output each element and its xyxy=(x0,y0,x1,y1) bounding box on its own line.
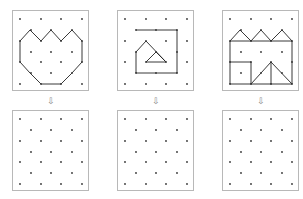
grid-dot xyxy=(270,140,272,142)
grid-dot xyxy=(145,40,147,42)
grid-dot xyxy=(30,129,32,131)
grid-dot xyxy=(186,40,188,42)
grid-dot xyxy=(250,18,252,20)
grid-dot xyxy=(19,161,21,163)
grid-dot xyxy=(135,29,137,31)
figure-crown-shape xyxy=(20,30,82,84)
grid-dot xyxy=(81,18,83,20)
grid-dot xyxy=(250,40,252,42)
grid-dot xyxy=(60,83,62,85)
grid-dot xyxy=(145,61,147,63)
grid-dot xyxy=(155,72,157,74)
grid-dot xyxy=(240,51,242,53)
grid-dot xyxy=(135,72,137,74)
grid-dot xyxy=(135,151,137,153)
grid-dot xyxy=(186,61,188,63)
grid-dot xyxy=(260,51,262,53)
grid-dot xyxy=(124,40,126,42)
grid-dot xyxy=(186,140,188,142)
figure-drawings xyxy=(0,0,303,199)
grid-dot xyxy=(165,61,167,63)
grid-dot xyxy=(30,72,32,74)
grid-dot xyxy=(291,183,293,185)
grid-dot xyxy=(40,40,42,42)
grid-dot xyxy=(71,129,73,131)
grid-dot xyxy=(186,183,188,185)
grid-dot xyxy=(281,72,283,74)
grid-dot xyxy=(291,140,293,142)
grid-dot xyxy=(60,18,62,20)
grid-dot xyxy=(270,61,272,63)
grid-dot xyxy=(291,118,293,120)
grid-dot xyxy=(60,140,62,142)
grid-dot xyxy=(60,118,62,120)
grid-dot xyxy=(250,183,252,185)
grid-dot xyxy=(40,118,42,120)
grid-dot xyxy=(71,72,73,74)
grid-dot xyxy=(281,151,283,153)
grid-dot xyxy=(124,61,126,63)
grid-dot xyxy=(240,151,242,153)
grid-dot xyxy=(81,118,83,120)
grid-dot xyxy=(165,118,167,120)
grid-dot xyxy=(40,83,42,85)
grid-dot xyxy=(229,118,231,120)
grid-dot xyxy=(250,83,252,85)
grid-dot xyxy=(155,151,157,153)
grid-dot xyxy=(270,83,272,85)
grid-dot xyxy=(176,51,178,53)
grid-dot xyxy=(50,129,52,131)
grid-dot xyxy=(40,183,42,185)
grid-dot xyxy=(145,118,147,120)
grid-dot xyxy=(145,161,147,163)
grid-dot xyxy=(250,161,252,163)
grid-dot xyxy=(165,161,167,163)
grid-dot xyxy=(165,18,167,20)
grid-dot xyxy=(19,61,21,63)
grid-dot xyxy=(81,61,83,63)
grid-dot xyxy=(50,172,52,174)
grid-dot xyxy=(240,172,242,174)
grid-dot xyxy=(145,140,147,142)
grid-dot xyxy=(281,51,283,53)
grid-dot xyxy=(270,118,272,120)
grid-dot xyxy=(176,29,178,31)
grid-dot xyxy=(270,40,272,42)
grid-dot xyxy=(81,83,83,85)
grid-dot xyxy=(60,61,62,63)
grid-dot xyxy=(155,172,157,174)
grid-dot xyxy=(229,183,231,185)
grid-dot xyxy=(165,140,167,142)
grid-dot xyxy=(30,172,32,174)
grid-dot xyxy=(229,40,231,42)
grid-dot xyxy=(250,118,252,120)
grid-dot xyxy=(186,18,188,20)
grid-dot xyxy=(40,140,42,142)
grid-dot xyxy=(291,61,293,63)
grid-dot xyxy=(145,18,147,20)
grid-dot xyxy=(19,83,21,85)
grid-dot xyxy=(240,129,242,131)
grid-dot xyxy=(145,83,147,85)
grid-dot xyxy=(60,161,62,163)
grid-dot xyxy=(50,29,52,31)
grid-dot xyxy=(50,51,52,53)
grid-dot xyxy=(19,40,21,42)
grid-dot xyxy=(155,129,157,131)
grid-dot xyxy=(19,183,21,185)
grid-dot xyxy=(81,161,83,163)
grid-dot xyxy=(270,183,272,185)
grid-dot xyxy=(186,83,188,85)
grid-dot xyxy=(260,29,262,31)
grid-dot xyxy=(250,61,252,63)
grid-dot xyxy=(165,83,167,85)
grid-dot xyxy=(176,129,178,131)
grid-dot xyxy=(229,18,231,20)
grid-dot xyxy=(186,118,188,120)
grid-dot xyxy=(40,161,42,163)
grid-dot xyxy=(260,129,262,131)
grid-dot xyxy=(165,40,167,42)
grid-dot xyxy=(155,51,157,53)
grid-dot xyxy=(281,172,283,174)
grid-dot xyxy=(124,83,126,85)
